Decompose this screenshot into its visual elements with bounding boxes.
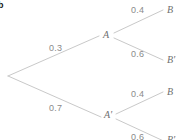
probability-label-a-prime-to-b: 0.4 [131,90,144,99]
tree-branches [0,0,182,140]
node-label-b-prime-lower: B' [167,135,175,140]
panel-label: b [0,1,4,10]
probability-label-a-prime-to-b-prime: 0.6 [131,133,144,140]
branch-root-to-a [8,36,99,76]
node-label-a-prime: A' [104,110,112,120]
node-label-b-lower: B [167,87,173,97]
node-label-b-prime-upper: B' [167,55,175,65]
node-label-b-upper: B [167,5,173,15]
probability-label-a-to-b-prime: 0.6 [131,50,144,59]
probability-tree-figure: b 0.3 0.7 0.4 0.6 0.4 0.6 A A' B B' B B' [0,0,182,140]
probability-label-root-to-a: 0.3 [49,44,62,53]
probability-label-root-to-a-prime: 0.7 [49,104,62,113]
probability-label-a-to-b: 0.4 [131,6,144,15]
node-label-a: A [103,30,109,40]
